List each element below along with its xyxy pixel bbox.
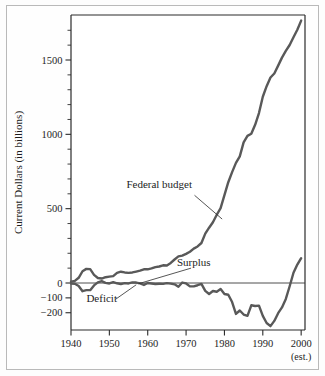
- x-axis-tick-label: 1980: [214, 338, 235, 349]
- y-axis-tick-label: −200: [41, 307, 63, 318]
- y-axis-title: Current Dollars (in billions): [12, 111, 25, 234]
- x-axis-tick-label: 1990: [252, 338, 273, 349]
- y-axis-tick-label: 0: [57, 278, 62, 289]
- annotation-label-deficit: Deficit: [86, 292, 117, 304]
- chart-figure: 150010005000−100−20019401950196019701980…: [0, 0, 325, 376]
- x-axis-tick-label: 1970: [176, 338, 197, 349]
- annotation-label-federal-budget: Federal budget: [126, 178, 192, 190]
- budget-chart: 150010005000−100−20019401950196019701980…: [0, 0, 325, 376]
- x-axis-tick-label: 1950: [99, 338, 120, 349]
- x-axis-tick-label: 2000: [291, 338, 312, 349]
- x-axis-tick-label: 1960: [137, 338, 158, 349]
- y-axis-tick-label: −100: [41, 292, 63, 303]
- y-axis-tick-label: 500: [47, 203, 63, 214]
- annotation-label-surplus: Surplus: [177, 256, 211, 268]
- y-axis-tick-label: 1000: [42, 129, 63, 140]
- x-axis-tick-label: 1940: [61, 338, 82, 349]
- x-axis-estimate-note: (est.): [291, 351, 311, 363]
- y-axis-tick-label: 1500: [42, 55, 63, 66]
